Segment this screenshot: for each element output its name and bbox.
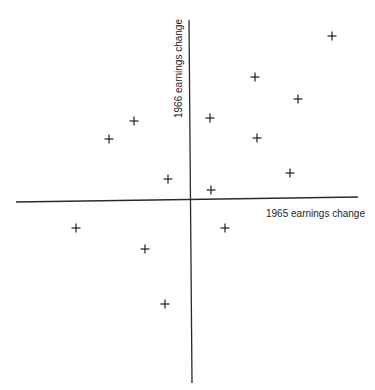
x-axis-label: 1965 earnings change [266, 208, 365, 219]
plus-marker-icon [105, 135, 114, 144]
plus-marker-icon [130, 117, 139, 126]
plus-marker-icon [206, 114, 215, 123]
data-points [72, 32, 337, 309]
plus-marker-icon [221, 224, 230, 233]
plus-marker-icon [207, 186, 216, 195]
scatter-chart: 1965 earnings change 1966 earnings chang… [0, 0, 375, 390]
plus-marker-icon [294, 95, 303, 104]
plus-marker-icon [286, 169, 295, 178]
x-axis [16, 197, 358, 202]
y-axis-label: 1966 earnings change [173, 19, 184, 118]
y-axis [189, 20, 192, 383]
plus-marker-icon [328, 32, 337, 41]
plus-marker-icon [253, 134, 262, 143]
plus-marker-icon [164, 175, 173, 184]
plus-marker-icon [161, 300, 170, 309]
plus-marker-icon [72, 224, 81, 233]
plus-marker-icon [141, 245, 150, 254]
plus-marker-icon [251, 73, 260, 82]
